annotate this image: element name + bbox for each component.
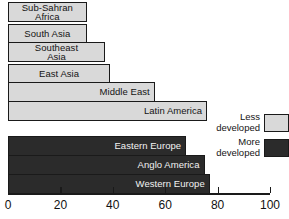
x-axis-tick-label: 0 xyxy=(5,199,12,212)
bar-label: Eastern Europe xyxy=(114,141,185,151)
legend-swatch-icon xyxy=(264,114,289,132)
legend-swatch-icon xyxy=(264,139,289,157)
legend: Less developed More developed xyxy=(205,112,289,162)
x-axis-tick-label: 20 xyxy=(54,199,67,212)
bar-row: Latin America xyxy=(8,101,207,121)
x-axis-tick xyxy=(8,187,9,193)
x-axis-tick xyxy=(165,187,166,193)
x-axis-tick-label: 40 xyxy=(106,199,119,212)
bar-row: East Asia xyxy=(8,64,110,84)
bar-label: Anglo America xyxy=(138,160,204,170)
legend-label: Less developed xyxy=(216,112,260,133)
bar-label: Middle East xyxy=(100,87,154,97)
x-axis-tick-label: 60 xyxy=(159,199,172,212)
x-axis-tick-label: 100 xyxy=(260,199,280,212)
bar-chart: Sub-Sahran Africa South Asia Southeast A… xyxy=(0,0,289,219)
bar-label: South Asia xyxy=(9,29,86,39)
bar-label: Western Europe xyxy=(136,179,209,189)
legend-label: More developed xyxy=(216,137,260,158)
legend-entry-less-developed: Less developed xyxy=(205,112,289,133)
bar-row: South Asia xyxy=(8,24,87,44)
bar-row: Southeast Asia xyxy=(8,42,105,62)
bar-row: Anglo America xyxy=(8,155,205,175)
bar-row: Western Europe xyxy=(8,174,210,194)
x-axis-tick xyxy=(60,187,61,193)
x-axis-line xyxy=(8,193,270,195)
bar-label: Southeast Asia xyxy=(9,43,104,62)
x-axis-tick xyxy=(218,187,219,193)
plot-area: Sub-Sahran Africa South Asia Southeast A… xyxy=(0,0,289,194)
x-axis-tick-label: 80 xyxy=(211,199,224,212)
legend-entry-more-developed: More developed xyxy=(205,137,289,158)
x-axis-tick xyxy=(270,187,271,193)
bar-label: East Asia xyxy=(9,69,109,79)
bar-label: Sub-Sahran Africa xyxy=(9,3,86,22)
bar-row: Sub-Sahran Africa xyxy=(8,2,87,22)
bar-label: Latin America xyxy=(144,106,206,116)
x-axis-tick xyxy=(113,187,114,193)
bar-row: Middle East xyxy=(8,82,155,102)
bar-row: Eastern Europe xyxy=(8,136,186,156)
